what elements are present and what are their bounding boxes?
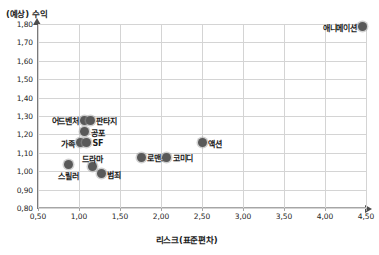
gridline-vertical bbox=[366, 24, 367, 208]
y-axis-tick-label: 1,60 bbox=[3, 56, 33, 65]
x-axis-tick-label: 3,50 bbox=[264, 212, 304, 221]
data-point-label: 스릴러 bbox=[58, 170, 78, 181]
y-axis-tick-label: 1,40 bbox=[3, 93, 33, 102]
x-axis-tick-mark bbox=[243, 208, 244, 211]
data-point[interactable] bbox=[198, 138, 207, 147]
gridline-horizontal bbox=[38, 171, 366, 172]
gridline-horizontal bbox=[38, 61, 366, 62]
data-point[interactable] bbox=[86, 116, 95, 125]
data-point[interactable] bbox=[82, 138, 91, 147]
x-axis-tick-mark bbox=[284, 208, 285, 211]
y-axis-tick-label: 1,70 bbox=[3, 38, 33, 47]
data-point-label: 어드벤처 bbox=[52, 115, 79, 126]
data-point-label: 드라마 bbox=[82, 153, 102, 164]
x-axis-tick-mark bbox=[120, 208, 121, 211]
x-axis-tick-mark bbox=[79, 208, 80, 211]
data-point-label: 액션 bbox=[208, 137, 222, 148]
x-axis-tick-label: 2,00 bbox=[141, 212, 181, 221]
x-axis-tick-label: 1,00 bbox=[59, 212, 99, 221]
gridline-horizontal bbox=[38, 98, 366, 99]
x-axis-tick-mark bbox=[202, 208, 203, 211]
y-axis-tick-label: 1,50 bbox=[3, 75, 33, 84]
gridline-horizontal bbox=[38, 79, 366, 80]
x-axis-tick-label: 3,00 bbox=[223, 212, 263, 221]
x-axis-tick-label: 1,50 bbox=[100, 212, 140, 221]
data-point[interactable] bbox=[137, 153, 146, 162]
data-point-label: 애니메이션 bbox=[323, 21, 357, 32]
x-axis-tick-label: 0,50 bbox=[18, 212, 58, 221]
gridline-horizontal bbox=[38, 190, 366, 191]
x-axis-tick-mark bbox=[38, 208, 39, 211]
data-point-label: 가족 bbox=[61, 137, 75, 148]
x-axis-title: 리스크(표준편차) bbox=[0, 233, 373, 245]
x-axis-tick-label: 2,50 bbox=[182, 212, 222, 221]
data-point-label: 코미디 bbox=[173, 152, 193, 163]
data-point-label: 판타지 bbox=[96, 115, 116, 126]
data-point-label: SF bbox=[92, 138, 103, 147]
x-axis-tick-mark bbox=[366, 208, 367, 211]
y-axis-tick-label: 1,30 bbox=[3, 112, 33, 121]
y-axis-tick-label: 1,10 bbox=[3, 148, 33, 157]
y-axis-tick-label: 1,20 bbox=[3, 130, 33, 139]
data-point-label: 범죄 bbox=[107, 168, 121, 179]
data-point-label: 공포 bbox=[91, 126, 105, 137]
y-axis-tick-label: 1,80 bbox=[3, 20, 33, 29]
gridline-horizontal bbox=[38, 24, 366, 25]
y-axis-tick-label: 1,00 bbox=[3, 167, 33, 176]
x-axis-tick-mark bbox=[161, 208, 162, 211]
x-axis-tick-label: 4,50 bbox=[346, 212, 379, 221]
x-axis-tick-label: 4,00 bbox=[305, 212, 345, 221]
x-axis-tick-mark bbox=[325, 208, 326, 211]
y-axis-tick-label: 0,90 bbox=[3, 185, 33, 194]
gridline-horizontal bbox=[38, 42, 366, 43]
